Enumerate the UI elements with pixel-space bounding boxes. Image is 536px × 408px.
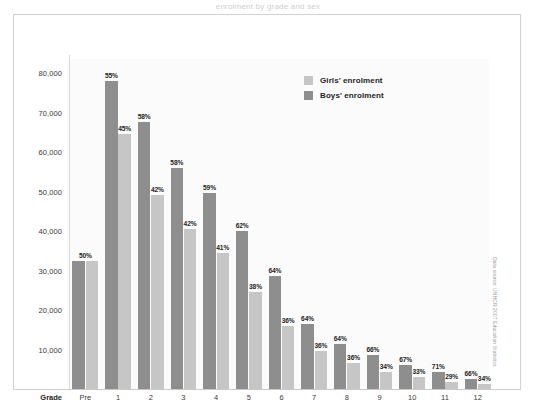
bar-boys-12 xyxy=(465,379,478,389)
x-axis-tick-2: 2 xyxy=(149,393,153,402)
x-axis-tick-5: 5 xyxy=(247,393,251,402)
legend-label-girls: Girls' enrolment xyxy=(320,76,383,85)
x-axis-tick-9: 9 xyxy=(377,393,381,402)
chart-legend: Girls' enrolment Boys' enrolment xyxy=(304,73,474,103)
legend-item-boys: Boys' enrolment xyxy=(304,88,474,103)
bar-group: 66%34% xyxy=(14,15,522,389)
x-axis-tick-7: 7 xyxy=(312,393,316,402)
x-axis-baseline xyxy=(69,389,494,390)
x-axis-tick-6: 6 xyxy=(279,393,283,402)
data-source-note: Data source: UNHCR 2007 Education Statis… xyxy=(492,257,498,387)
x-axis-tick-10: 10 xyxy=(408,393,416,402)
x-axis-tick-12: 12 xyxy=(473,393,481,402)
legend-label-boys: Boys' enrolment xyxy=(320,91,384,100)
bar-girls-12 xyxy=(478,384,491,389)
top-caption-strip: enrolment by grade and sex xyxy=(0,0,536,14)
chart-frame: 10,00020,00030,00040,00050,00060,00070,0… xyxy=(13,14,521,390)
x-axis-tick-4: 4 xyxy=(214,393,218,402)
legend-item-girls: Girls' enrolment xyxy=(304,73,474,88)
x-axis-title: Grade xyxy=(14,393,62,402)
bar-value-label: 66% xyxy=(465,370,478,377)
x-axis: Grade Pre123456789101112 xyxy=(14,393,522,408)
legend-swatch-boys-icon xyxy=(304,91,313,100)
x-axis-tick-3: 3 xyxy=(181,393,185,402)
bar-value-label: 34% xyxy=(478,375,491,382)
x-axis-tick-8: 8 xyxy=(345,393,349,402)
x-axis-tick-Pre: Pre xyxy=(80,393,92,402)
x-axis-tick-1: 1 xyxy=(116,393,120,402)
legend-swatch-girls-icon xyxy=(304,76,313,85)
x-axis-tick-11: 11 xyxy=(441,393,449,402)
chart-page: enrolment by grade and sex 10,00020,0003… xyxy=(0,0,536,408)
